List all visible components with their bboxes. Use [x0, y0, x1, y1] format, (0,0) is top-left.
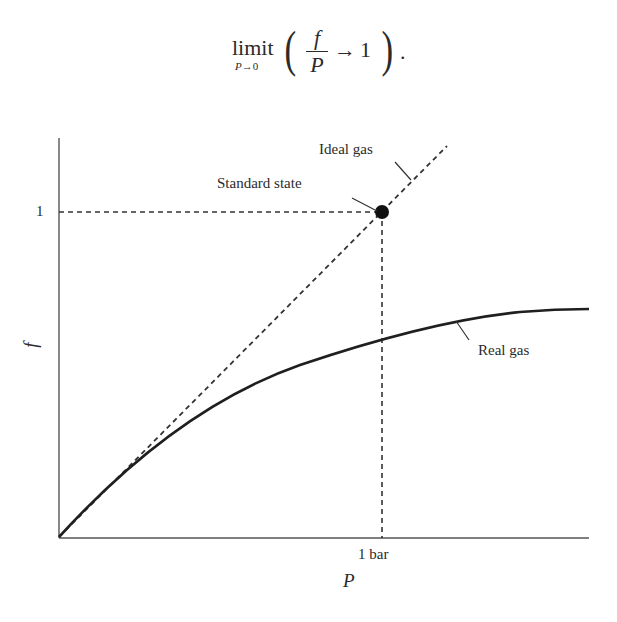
- standard-state-marker: [375, 205, 389, 219]
- x-axis-label: P: [343, 570, 355, 592]
- real-gas-leader: [456, 321, 469, 340]
- real-gas-label: Real gas: [478, 342, 529, 359]
- standard-state-leader: [352, 198, 377, 211]
- ideal-gas-leader: [395, 162, 411, 180]
- fugacity-chart: [0, 0, 617, 622]
- y-axis-label: f: [20, 342, 42, 347]
- ideal-gas-label: Ideal gas: [319, 141, 373, 158]
- y-tick-1: 1: [36, 203, 44, 220]
- standard-state-label: Standard state: [217, 175, 302, 192]
- x-tick-1bar: 1 bar: [358, 546, 388, 563]
